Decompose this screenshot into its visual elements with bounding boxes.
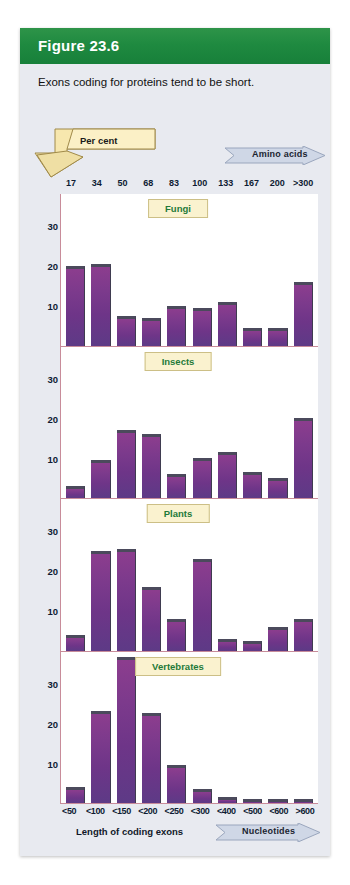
x-axis-title: Length of coding exons xyxy=(76,826,183,837)
bar[interactable] xyxy=(66,266,85,346)
bar-slot xyxy=(240,652,265,804)
bottom-axis-ticks: <50 <100 <150 <200 <250 <300 <400 <500 <… xyxy=(56,806,318,820)
bottom-tick: <500 xyxy=(239,806,265,820)
y-tick: 30 xyxy=(47,526,58,537)
bar-slot xyxy=(88,652,113,804)
bar[interactable] xyxy=(218,302,237,346)
bar-slot xyxy=(265,499,290,651)
bottom-tick: <150 xyxy=(108,806,134,820)
bar-slot xyxy=(114,347,139,499)
bar[interactable] xyxy=(142,434,161,498)
bar-slot xyxy=(63,347,88,499)
bar[interactable] xyxy=(294,282,313,346)
bar-slot xyxy=(265,652,290,804)
chart-panel-insects: 102030Insects xyxy=(38,347,318,500)
bottom-tick: <400 xyxy=(213,806,239,820)
bar[interactable] xyxy=(193,458,212,498)
top-tick: 17 xyxy=(58,178,84,192)
bar[interactable] xyxy=(294,799,313,803)
bar[interactable] xyxy=(167,474,186,498)
bar-slot xyxy=(291,194,316,346)
amino-acids-label: Amino acids xyxy=(252,149,308,159)
bar[interactable] xyxy=(167,619,186,651)
bar[interactable] xyxy=(193,559,212,651)
top-tick: >300 xyxy=(290,178,316,192)
y-tick: 20 xyxy=(47,261,58,272)
y-tick: 10 xyxy=(47,301,58,312)
bar-slot xyxy=(291,499,316,651)
bar-slot xyxy=(215,194,240,346)
bar[interactable] xyxy=(91,551,110,651)
bar-slot xyxy=(291,347,316,499)
top-tick: 200 xyxy=(264,178,290,192)
bar[interactable] xyxy=(142,318,161,346)
bar-slot xyxy=(240,499,265,651)
y-axis-ticks: 102030 xyxy=(38,499,58,652)
bar[interactable] xyxy=(167,306,186,346)
bar[interactable] xyxy=(66,635,85,651)
bar[interactable] xyxy=(268,328,287,346)
bar[interactable] xyxy=(193,789,212,803)
bar[interactable] xyxy=(243,641,262,651)
top-tick: 167 xyxy=(239,178,265,192)
bar-slot xyxy=(240,194,265,346)
bar[interactable] xyxy=(91,711,110,803)
y-axis-ticks: 102030 xyxy=(38,652,58,805)
bar[interactable] xyxy=(117,549,136,651)
top-tick: 83 xyxy=(161,178,187,192)
top-tick: 133 xyxy=(213,178,239,192)
bar[interactable] xyxy=(268,627,287,651)
nucleotides-label: Nucleotides xyxy=(242,826,295,836)
bar-slot xyxy=(265,347,290,499)
bar[interactable] xyxy=(142,713,161,803)
bar[interactable] xyxy=(66,486,85,498)
top-tick: 100 xyxy=(187,178,213,192)
y-tick: 20 xyxy=(47,413,58,424)
bar[interactable] xyxy=(294,619,313,651)
panel-title-vertebrates: Vertebrates xyxy=(135,657,221,676)
y-tick: 10 xyxy=(47,453,58,464)
y-tick: 10 xyxy=(47,606,58,617)
figure-number-label: Figure 23.6 xyxy=(38,37,119,54)
bottom-tick: <200 xyxy=(135,806,161,820)
chart-panels: 102030Fungi102030Insects102030Plants1020… xyxy=(38,194,318,804)
bar[interactable] xyxy=(66,787,85,803)
bar[interactable] xyxy=(294,418,313,498)
y-tick: 30 xyxy=(47,678,58,689)
bar[interactable] xyxy=(91,460,110,498)
bar[interactable] xyxy=(218,639,237,651)
top-axis-ticks: 17 34 50 68 83 100 133 167 200 >300 xyxy=(58,178,316,192)
chart-panel-fungi: 102030Fungi xyxy=(38,194,318,347)
bottom-tick: <100 xyxy=(82,806,108,820)
panel-title-insects: Insects xyxy=(145,352,212,371)
bottom-tick: <50 xyxy=(56,806,82,820)
bar[interactable] xyxy=(218,452,237,498)
bar[interactable] xyxy=(268,478,287,498)
bar[interactable] xyxy=(142,587,161,651)
bar-slot xyxy=(63,652,88,804)
y-tick: 20 xyxy=(47,566,58,577)
figure-caption: Exons coding for proteins tend to be sho… xyxy=(38,76,318,88)
bar-slot xyxy=(215,499,240,651)
bar[interactable] xyxy=(117,430,136,498)
bar[interactable] xyxy=(268,799,287,803)
bar[interactable] xyxy=(91,264,110,346)
bottom-tick: >600 xyxy=(292,806,318,820)
bar[interactable] xyxy=(243,328,262,346)
bar[interactable] xyxy=(243,799,262,803)
bar-slot xyxy=(114,194,139,346)
chart-panel-vertebrates: 102030Vertebrates xyxy=(38,652,318,805)
bar[interactable] xyxy=(117,316,136,346)
top-tick: 68 xyxy=(135,178,161,192)
percent-axis-label: Per cent xyxy=(80,135,118,146)
bottom-tick: <600 xyxy=(266,806,292,820)
y-axis-ticks: 102030 xyxy=(38,194,58,347)
top-tick: 34 xyxy=(84,178,110,192)
bar[interactable] xyxy=(117,657,136,803)
bar[interactable] xyxy=(218,797,237,803)
bar[interactable] xyxy=(193,308,212,346)
bar[interactable] xyxy=(243,472,262,498)
bar[interactable] xyxy=(167,765,186,803)
y-axis-ticks: 102030 xyxy=(38,347,58,500)
bar-slot xyxy=(291,652,316,804)
